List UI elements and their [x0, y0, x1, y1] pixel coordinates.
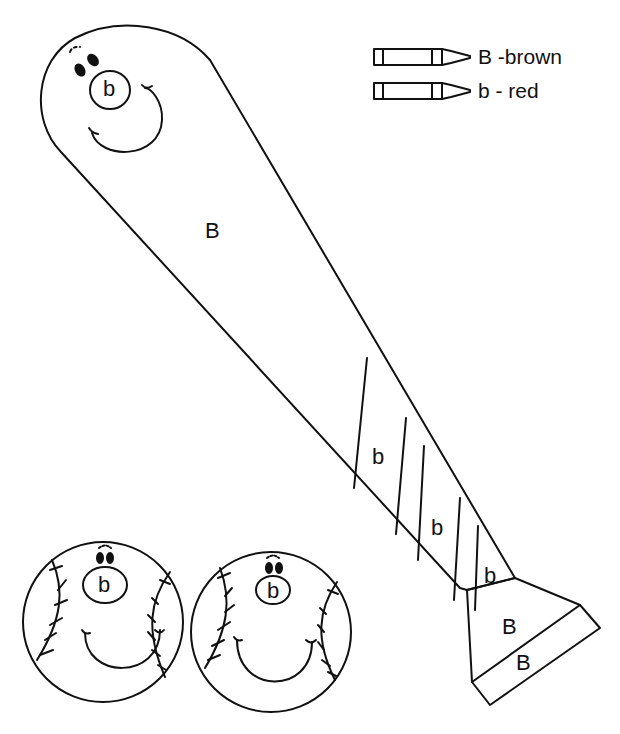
baseball-right	[191, 552, 351, 712]
bat-knob-outline	[467, 578, 600, 705]
stripe-label-3: b	[484, 565, 496, 587]
knob-label-2: B	[516, 652, 531, 674]
stripe-label-2: b	[431, 517, 443, 539]
knob-label-1: B	[502, 616, 517, 638]
eye-left	[74, 63, 87, 77]
bat-face	[70, 47, 162, 152]
coloring-page-drawing	[0, 0, 620, 734]
bat-outline	[41, 26, 515, 590]
ball-right-nose-label: b	[267, 580, 279, 602]
bat-nose-label: b	[103, 78, 115, 100]
legend-item-brown: B -brown	[478, 46, 562, 67]
crayon-icon-brown	[374, 49, 470, 65]
eye-right	[86, 53, 100, 67]
bat-body-label: B	[205, 220, 220, 242]
stripe-label-1: b	[372, 446, 384, 468]
legend-item-red: b - red	[478, 80, 539, 101]
baseball-left	[23, 542, 183, 702]
crayon-icon-red	[374, 83, 470, 99]
ball-left-nose-label: b	[98, 574, 110, 596]
